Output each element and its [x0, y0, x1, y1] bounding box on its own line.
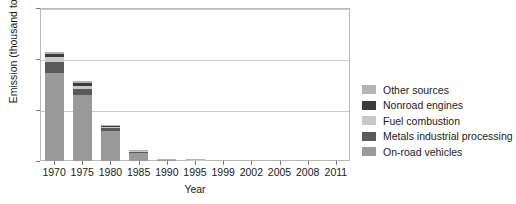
x-tick-mark — [110, 161, 111, 165]
legend-swatch-icon — [362, 116, 376, 125]
x-axis-label: Year — [40, 183, 350, 195]
y-tick-mark — [36, 59, 40, 60]
bar-segment — [129, 152, 148, 161]
bar-segment — [73, 89, 92, 95]
emission-stacked-bar-chart: Emission (thousand tons) 0100200300 1970… — [0, 0, 516, 204]
legend-swatch-icon — [362, 147, 376, 156]
x-tick-mark — [139, 161, 140, 165]
bar-segment — [101, 127, 120, 128]
bar-segment — [101, 131, 120, 161]
bar-segment — [101, 125, 120, 126]
legend-label: On-road vehicles — [383, 146, 462, 158]
legend-swatch-icon — [362, 85, 376, 94]
legend-label: Fuel combustion — [383, 115, 460, 127]
bar-segment — [101, 128, 120, 131]
bar-segment — [45, 57, 64, 62]
x-tick-mark — [54, 161, 55, 165]
legend-item: On-road vehicles — [362, 144, 513, 160]
bar-segment — [45, 62, 64, 73]
legend-item: Metals industrial processing — [362, 129, 513, 145]
x-tick-mark — [280, 161, 281, 165]
legend-item: Nonroad engines — [362, 98, 513, 114]
legend-item: Other sources — [362, 82, 513, 98]
chart-legend: Other sourcesNonroad enginesFuel combust… — [362, 82, 513, 160]
bar-segment — [186, 159, 205, 160]
bar-segment — [73, 81, 92, 83]
x-tick-mark — [167, 161, 168, 165]
y-tick-mark — [36, 161, 40, 162]
bar-segment — [157, 159, 176, 160]
legend-swatch-icon — [362, 132, 376, 141]
y-tick-mark — [36, 110, 40, 111]
bar-segment — [73, 83, 92, 86]
x-tick-mark — [82, 161, 83, 165]
x-tick-mark — [223, 161, 224, 165]
bar-segment — [45, 73, 64, 161]
bar-1980 — [101, 125, 120, 161]
legend-swatch-icon — [362, 101, 376, 110]
x-tick-label: 2011 — [316, 166, 356, 178]
bar-1985 — [129, 151, 148, 161]
bars-layer — [40, 8, 350, 161]
bar-segment — [73, 86, 92, 89]
legend-label: Nonroad engines — [383, 99, 463, 111]
bar-segment — [45, 52, 64, 54]
bar-segment — [129, 150, 148, 151]
bar-segment — [129, 152, 148, 153]
x-tick-mark — [251, 161, 252, 165]
legend-label: Metals industrial processing — [383, 130, 513, 142]
bar-segment — [45, 54, 64, 57]
bar-segment — [101, 125, 120, 126]
bar-1975 — [73, 81, 92, 161]
y-tick-mark — [36, 8, 40, 9]
bar-segment — [73, 95, 92, 161]
x-tick-mark — [336, 161, 337, 165]
bar-1970 — [45, 52, 64, 161]
y-axis-label: Emission (thousand tons) — [7, 0, 19, 119]
x-tick-mark — [308, 161, 309, 165]
x-tick-mark — [195, 161, 196, 165]
legend-label: Other sources — [383, 84, 449, 96]
legend-item: Fuel combustion — [362, 113, 513, 129]
